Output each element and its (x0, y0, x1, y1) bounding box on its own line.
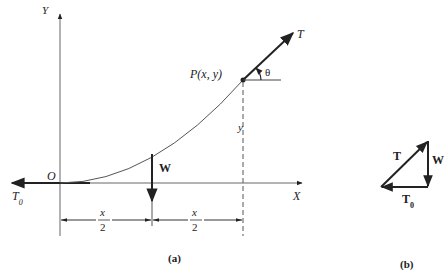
triangle-weight-label: W (432, 153, 444, 167)
weight-label: W (159, 161, 171, 175)
triangle-tension-label: T (393, 149, 401, 163)
tension-label: T (297, 27, 305, 41)
dimension-right-num: x (191, 206, 197, 218)
y-axis-label: Y (42, 4, 50, 16)
dimension-left-num: x (99, 206, 105, 218)
t0-label: T0 (12, 189, 23, 207)
catenary-diagram: Y X O T0 P(x, y) T θ y W x (0, 0, 448, 278)
angle-label: θ (265, 66, 270, 78)
dimension-right-den: 2 (192, 221, 198, 233)
triangle-t0-label: T0 (402, 192, 414, 210)
dimension-left-den: 2 (100, 221, 106, 233)
height-label: y (237, 121, 243, 133)
origin-label: O (47, 169, 56, 183)
panel-b-caption: (b) (400, 258, 414, 271)
angle-arc (256, 68, 261, 80)
panel-b: T W T0 (b) (381, 141, 444, 271)
x-axis-label: X (292, 189, 301, 203)
triangle-tension-arrow (381, 142, 427, 187)
panel-a: Y X O T0 P(x, y) T θ y W x (12, 4, 305, 265)
point-p-label: P(x, y) (189, 67, 222, 81)
panel-a-caption: (a) (168, 252, 181, 265)
